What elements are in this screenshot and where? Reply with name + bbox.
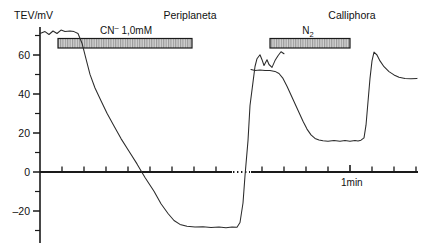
- y-tick-label-20: 20: [18, 127, 30, 139]
- y-tick-label-0: 0: [24, 166, 30, 178]
- trace-calliphora: [251, 52, 417, 141]
- y-axis-title: TEV/mV: [14, 9, 53, 21]
- panel-periplaneta: Periplaneta CN– 1,0mM: [40, 9, 284, 228]
- y-tick-label-minus20: –20: [12, 205, 30, 217]
- treatment-label-nitrogen-sub: 2: [310, 30, 314, 39]
- species-label-calliphora: Calliphora: [328, 9, 375, 21]
- y-axis: 60 40 20 0 –20 TEV/mV: [12, 9, 53, 243]
- treatment-label-cyanide-conc: 1,0mM: [119, 25, 152, 36]
- treatment-bar-nitrogen: [270, 39, 350, 49]
- y-tick-label-60: 60: [18, 49, 30, 61]
- x-axis: 1min: [40, 165, 418, 188]
- panel-calliphora: Calliphora N2: [251, 9, 417, 141]
- chart-svg: 60 40 20 0 –20 TEV/mV: [0, 0, 429, 252]
- treatment-bar-cyanide: [58, 39, 192, 49]
- y-tick-label-40: 40: [18, 88, 30, 100]
- treatment-label-nitrogen-main: N: [302, 25, 309, 36]
- species-label-periplaneta: Periplaneta: [163, 9, 216, 21]
- treatment-label-cyanide-main: CN: [100, 25, 114, 36]
- treatment-label-cyanide: CN– 1,0mM: [100, 23, 152, 36]
- trace-periplaneta: [40, 30, 284, 228]
- time-scale-label: 1min: [341, 177, 363, 188]
- chart-figure: 60 40 20 0 –20 TEV/mV: [0, 0, 429, 252]
- treatment-label-nitrogen: N2: [302, 25, 313, 39]
